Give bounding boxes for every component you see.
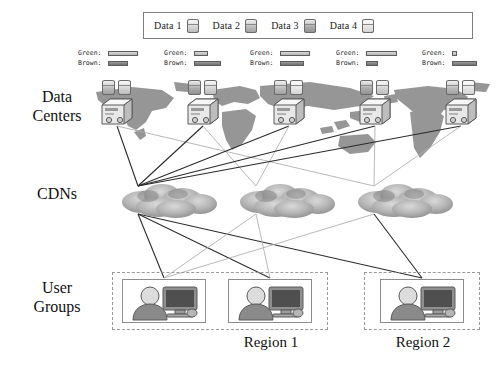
stat-bar-green [452,51,457,56]
data-center-databases [360,80,389,95]
cdn-cloud-icon[interactable] [118,180,222,220]
data-center-databases [188,80,217,95]
data-center-icon[interactable] [272,80,316,128]
server-tower-icon [272,97,306,127]
database-cylinder-icon [102,80,115,95]
legend-item: Data 4 [330,19,375,33]
data-center-databases [274,80,303,95]
stat-row-brown: Brown: [250,58,310,68]
stat-row-green: Green: [336,48,397,58]
data-center-stat-block: Green:Brown: [422,48,477,68]
database-cylinder-icon [362,19,374,33]
database-cylinder-icon [187,19,199,33]
stat-row-brown: Brown: [164,58,221,68]
database-cylinder-icon [274,80,287,95]
stat-key-brown: Brown: [164,58,194,68]
user-group-icon[interactable] [380,279,464,323]
stat-bar-brown [108,61,128,66]
row-label-line: User [14,279,100,298]
database-cylinder-icon [204,80,217,95]
row-label-user-groups: User Groups [14,279,100,317]
row-label-line: Groups [14,298,100,317]
database-cylinder-icon [446,80,459,95]
connection-line [138,214,270,278]
row-label-line: Centers [14,107,100,126]
legend-item-label: Data 4 [330,20,358,31]
database-cylinder-icon [376,80,389,95]
stat-row-green: Green: [422,48,477,58]
legend-item-label: Data 2 [213,20,241,31]
server-tower-icon [358,97,392,127]
diagram-canvas: Data 1 Data 2 Data 3 Data 4 Data Centers… [0,0,504,372]
server-tower-icon [100,97,134,127]
legend: Data 1 Data 2 Data 3 Data 4 [143,12,473,39]
server-tower-icon [186,97,220,127]
data-center-icon[interactable] [444,80,488,128]
data-center-icon[interactable] [358,80,402,128]
cdn-cloud-icon[interactable] [236,180,340,220]
user-group-icon[interactable] [228,279,312,323]
database-cylinder-icon [304,19,316,33]
row-label-cdns: CDNs [14,185,100,204]
connection-line [256,214,270,278]
stat-row-green: Green: [250,48,310,58]
stat-key-green: Green: [336,48,366,58]
stat-key-brown: Brown: [422,58,452,68]
database-cylinder-icon [360,80,373,95]
server-tower-icon [444,97,478,127]
stat-key-brown: Brown: [78,58,108,68]
row-label-data-centers: Data Centers [14,88,100,126]
data-center-stat-block: Green:Brown: [164,48,221,68]
database-cylinder-icon [290,80,303,95]
stat-key-green: Green: [422,48,452,58]
database-cylinder-icon [118,80,131,95]
connection-line [164,214,374,278]
region-label: Region 1 [168,334,374,351]
legend-item-label: Data 3 [271,20,299,31]
stat-row-green: Green: [164,48,221,58]
legend-item: Data 3 [271,19,316,33]
database-cylinder-icon [188,80,201,95]
database-cylinder-icon [245,19,257,33]
stat-bar-brown [280,61,304,66]
stat-bar-green [366,51,397,56]
data-center-stat-block: Green:Brown: [336,48,397,68]
legend-item: Data 1 [154,19,199,33]
row-label-line: Data [14,88,100,107]
stat-key-brown: Brown: [336,58,366,68]
legend-item: Data 2 [213,19,258,33]
stat-bar-brown [194,61,221,66]
stat-row-green: Green: [78,48,138,58]
connection-line [138,214,164,278]
stat-row-brown: Brown: [422,58,477,68]
region-label: Region 2 [370,334,476,351]
connection-line [138,214,422,278]
stat-row-brown: Brown: [78,58,138,68]
stat-row-brown: Brown: [336,58,397,68]
data-center-icon[interactable] [186,80,230,128]
stat-bar-green [108,51,138,56]
stat-bar-brown [452,61,477,66]
data-center-stat-block: Green:Brown: [250,48,310,68]
user-group-icon[interactable] [122,279,206,323]
connection-line [374,214,422,278]
database-cylinder-icon [462,80,475,95]
data-center-icon[interactable] [100,80,144,128]
legend-item-label: Data 1 [154,20,182,31]
stat-bar-brown [366,61,378,66]
stat-key-green: Green: [250,48,280,58]
stat-bar-green [280,51,310,56]
connection-line [164,214,256,278]
data-center-stat-block: Green:Brown: [78,48,138,68]
stat-key-green: Green: [78,48,108,58]
data-center-databases [102,80,131,95]
stat-key-green: Green: [164,48,194,58]
stat-bar-green [194,51,208,56]
cdn-cloud-icon[interactable] [354,180,458,220]
stat-key-brown: Brown: [250,58,280,68]
data-center-databases [446,80,475,95]
